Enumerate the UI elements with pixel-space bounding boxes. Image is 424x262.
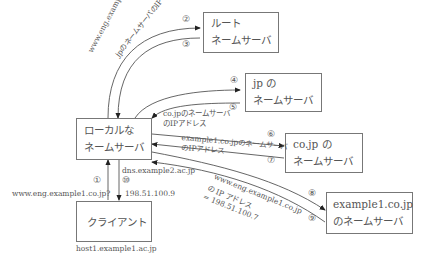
cojp-name-server-box: co.jp の ネームサーバ — [285, 133, 363, 173]
step-1-label: www.eng.example1.co.jp? — [12, 189, 110, 198]
step-9-number: ⑨ — [308, 213, 316, 223]
step-6-number: ⑥ — [267, 129, 275, 139]
local-box-line2: ネームサーバ — [84, 139, 144, 156]
example1-box-line2: のネームサーバ — [333, 213, 403, 230]
step-4-number: ④ — [230, 75, 238, 85]
local-host-label: dns.example2.ac.jp — [122, 166, 195, 175]
local-name-server-box: ローカルな ネームサーバ — [76, 118, 152, 160]
step-1-number: ① — [93, 175, 101, 185]
jp-box-line1: jp の — [253, 75, 276, 92]
example1-box-line1: example1.co.jp — [333, 196, 413, 213]
client-host-label: host1.example1.ac.jp — [76, 244, 157, 253]
step-5-number: ⑤ — [229, 102, 237, 112]
local-box-line1: ローカルな — [84, 122, 134, 139]
jp-box-line2: ネームサーバ — [253, 92, 313, 109]
cojp-box-line1: co.jp の — [293, 136, 332, 153]
client-box: クライアント — [76, 201, 152, 242]
root-box-line1: ルート — [211, 15, 241, 32]
client-box-line1: クライアント — [87, 214, 147, 231]
arrow-step-3 — [118, 38, 200, 118]
step-7-number: ⑦ — [267, 155, 275, 165]
step-10-label: 198.51.100.9 — [125, 189, 175, 198]
step-3-number: ③ — [182, 39, 190, 49]
step-5-label-line2: のIPアドレス — [163, 117, 206, 128]
jp-name-server-box: jp の ネームサーバ — [245, 73, 322, 112]
example1-name-server-box: example1.co.jp のネームサーバ — [326, 192, 413, 234]
cojp-box-line2: ネームサーバ — [293, 153, 353, 170]
root-box-line2: ネームサーバ — [211, 32, 271, 49]
step-8-number: ⑧ — [308, 188, 316, 198]
step-10-number: ⑩ — [122, 175, 130, 185]
root-name-server-box: ルート ネームサーバ — [203, 12, 279, 53]
step-2-number: ② — [182, 14, 190, 24]
